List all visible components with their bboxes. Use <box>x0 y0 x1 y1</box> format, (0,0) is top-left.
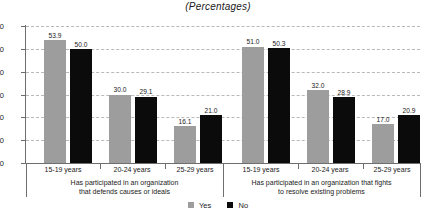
y-tick-label-40: 40 <box>0 68 4 77</box>
bar-g0-20-24-yes <box>109 95 131 164</box>
y-tick-mark-40 <box>21 72 26 73</box>
bar-g0-25-29-no <box>200 115 222 163</box>
bar-g1-25-29-yes <box>372 124 394 163</box>
bar-g1-15-19-no <box>268 48 290 163</box>
value-label-g0-15-19-yes: 53.9 <box>40 32 70 39</box>
group-label-0: Has participated in an organization that… <box>26 178 223 196</box>
y-tick-label-30: 30 <box>0 91 4 100</box>
y-tick-mark-60 <box>21 26 26 27</box>
group-label-1-line1: Has participated in an organization that… <box>223 178 420 187</box>
group-label-1-line2: to resolve existing problems <box>223 187 420 196</box>
bar-g1-25-29-no <box>398 115 420 163</box>
legend-item-no[interactable]: No <box>227 200 248 210</box>
y-tick-mark-10 <box>21 140 26 141</box>
chart-legend: Yes No <box>0 200 436 210</box>
bar-g0-20-24-no <box>135 97 157 164</box>
value-label-g0-25-29-no: 21.0 <box>196 107 226 114</box>
x-tick-label-g0-20-24: 20-24 years <box>99 166 165 173</box>
bar-g1-20-24-no <box>333 97 355 163</box>
y-tick-label-50: 50 <box>0 45 4 54</box>
y-tick-label-20: 20 <box>0 113 4 122</box>
group-label-1: Has participated in an organization that… <box>223 178 420 196</box>
x-tick-label-g1-15-19: 15-19 years <box>228 166 294 173</box>
legend-swatch-yes-icon <box>188 202 194 208</box>
bar-g1-20-24-yes <box>307 90 329 163</box>
bar-g0-15-19-yes <box>44 40 66 163</box>
x-tick-label-g0-25-29: 25-29 years <box>164 166 226 173</box>
y-tick-mark-50 <box>21 49 26 50</box>
y-tick-label-60: 60 <box>0 22 4 31</box>
bar-g1-15-19-yes <box>242 47 264 164</box>
group-label-0-line2: that defends causes or ideals <box>26 187 223 196</box>
legend-label-no: No <box>238 201 248 210</box>
legend-label-yes: Yes <box>199 201 211 210</box>
bar-chart: (Percentages) 53.9 50.0 30.0 29.1 16.1 2… <box>0 0 436 222</box>
legend-item-yes[interactable]: Yes <box>188 200 211 210</box>
value-label-g0-25-29-yes: 16.1 <box>170 118 200 125</box>
chart-title: (Percentages) <box>0 1 436 12</box>
legend-swatch-no-icon <box>227 202 233 208</box>
x-tick-label-g1-25-29: 25-29 years <box>362 166 422 173</box>
value-label-g1-15-19-no: 50.3 <box>264 40 294 47</box>
plot-area: 53.9 50.0 30.0 29.1 16.1 21.0 51.0 50.3 … <box>26 26 420 163</box>
y-tick-label-10: 10 <box>0 136 4 145</box>
value-label-g1-25-29-yes: 17.0 <box>368 116 398 123</box>
bar-g0-15-19-no <box>70 49 92 163</box>
value-label-g1-25-29-no: 20.9 <box>394 107 424 114</box>
y-tick-label-0: 0 <box>0 159 4 168</box>
gridline-60 <box>26 26 420 27</box>
x-tick-label-g0-15-19: 15-19 years <box>30 166 96 173</box>
bar-g0-25-29-yes <box>174 126 196 163</box>
value-label-g1-20-24-no: 28.9 <box>329 89 359 96</box>
x-tick-label-g1-20-24: 20-24 years <box>297 166 363 173</box>
value-label-g0-20-24-no: 29.1 <box>131 88 161 95</box>
y-tick-mark-30 <box>21 95 26 96</box>
value-label-g0-15-19-no: 50.0 <box>66 41 96 48</box>
value-label-g1-20-24-yes: 32.0 <box>303 82 333 89</box>
group-label-0-line1: Has participated in an organization <box>26 178 223 187</box>
y-tick-mark-20 <box>21 117 26 118</box>
